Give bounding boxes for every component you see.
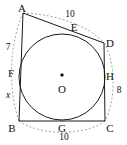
- measure-label-bc: 10: [59, 133, 69, 143]
- circle-center-label: O: [58, 84, 66, 95]
- quadrilateral-abcd: [19, 13, 105, 121]
- segment-ab: [19, 13, 23, 121]
- vertex-label-a: A: [18, 3, 26, 14]
- tangent-label-h: H: [106, 71, 114, 82]
- inscribed-circle: [19, 34, 105, 120]
- tangent-label-f: F: [8, 68, 14, 79]
- measure-label-dc: 8: [117, 86, 122, 96]
- dashed-outline-group: [12, 13, 114, 132]
- center-dot: [61, 74, 64, 77]
- vertex-label-c: C: [106, 123, 113, 134]
- dashed-arc-right: [104, 43, 113, 121]
- vertex-label-d: D: [106, 38, 114, 49]
- measure-label-ad: 10: [65, 10, 75, 20]
- geometry-figure: A B C D E F G H O 7 x 10 8 10: [0, 0, 127, 145]
- measure-label-fb: x: [6, 91, 10, 101]
- segment-ad: [23, 13, 104, 43]
- vertex-label-b: B: [8, 123, 15, 134]
- tangent-label-e: E: [71, 22, 78, 33]
- measure-label-af: 7: [6, 43, 11, 53]
